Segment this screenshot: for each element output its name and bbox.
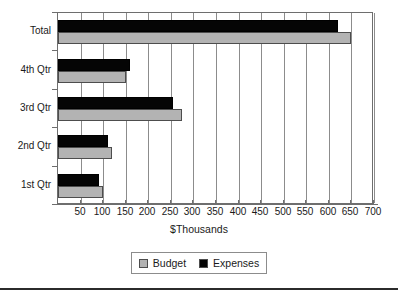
category-label: 2nd Qtr [18,140,51,151]
category-label: 3rd Qtr [20,102,51,113]
gridline [374,13,375,203]
value-tick [373,200,374,205]
category-tick [52,50,57,51]
bar-expenses [58,20,338,32]
value-tick-label: 700 [353,206,393,218]
bar-budget [58,186,103,198]
bar-budget [58,32,351,44]
value-tick [305,200,306,205]
value-tick [328,200,329,205]
category-tick [52,89,57,90]
value-tick [125,200,126,205]
legend-label-budget: Budget [153,257,186,269]
value-tick [238,200,239,205]
bar-budget [58,147,112,159]
plot-area [57,12,373,204]
value-tick [170,200,171,205]
bar-series-group [58,13,372,203]
footer-rule [0,288,398,290]
legend-entry-expenses: Expenses [199,257,259,269]
value-tick [57,200,58,205]
value-tick [260,200,261,205]
bar-expenses [58,135,108,147]
value-tick [192,200,193,205]
value-tick [215,200,216,205]
legend-entry-budget: Budget [139,257,186,269]
bar-row [58,13,372,51]
bar-expenses [58,97,173,109]
bar-expenses [58,59,130,71]
value-tick [350,200,351,205]
bar-row [58,128,372,166]
category-label: Total [30,25,51,36]
category-tick [52,127,57,128]
value-tick [283,200,284,205]
bar-budget [58,109,182,121]
legend-swatch-budget-icon [139,259,148,268]
value-tick [80,200,81,205]
bar-chart-figure: 1st Qtr2nd Qtr3rd Qtr4th QtrTotal 501001… [0,0,398,300]
x-axis-title: $Thousands [0,223,398,235]
value-tick [102,200,103,205]
category-tick [52,166,57,167]
legend-swatch-expenses-icon [199,259,208,268]
bar-budget [58,71,126,83]
value-tick [147,200,148,205]
legend-label-expenses: Expenses [213,257,259,269]
category-tick [52,12,57,13]
category-label: 4th Qtr [20,64,51,75]
bar-row [58,51,372,89]
category-label: 1st Qtr [21,179,51,190]
chart-legend: Budget Expenses [131,252,267,274]
bar-row [58,90,372,128]
bar-expenses [58,174,99,186]
